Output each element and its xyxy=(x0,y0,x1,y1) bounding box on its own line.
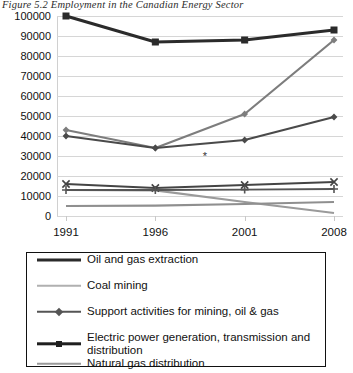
data-point-marker xyxy=(152,145,159,152)
series-line xyxy=(66,182,334,188)
legend-label: Oil and gas extraction xyxy=(87,253,198,266)
data-point-marker xyxy=(152,39,158,45)
data-point-marker xyxy=(330,185,338,193)
data-point-marker xyxy=(331,114,338,121)
y-tick-label: 20000 xyxy=(0,171,51,182)
legend-label: Electric power generation, transmission … xyxy=(87,331,310,357)
figure-title: Figure 5.2 Employment in the Canadian En… xyxy=(2,0,351,10)
legend-item[interactable]: Oil and gas extraction xyxy=(37,253,198,266)
square-marker-icon xyxy=(56,341,62,347)
y-tick-label: 100000 xyxy=(0,11,51,22)
y-tick-label: 0 xyxy=(0,211,51,222)
legend-swatch xyxy=(37,338,81,350)
x-tick-label: 2008 xyxy=(304,226,353,238)
legend-swatch xyxy=(37,306,81,318)
x-tick-label: 1996 xyxy=(125,226,185,238)
legend-label: Coal mining xyxy=(87,279,148,292)
data-point-marker xyxy=(242,37,248,43)
chart-area: 0100002000030000400005000060000700008000… xyxy=(0,12,353,245)
y-tick-label: 80000 xyxy=(0,51,51,62)
y-tick-label: 40000 xyxy=(0,131,51,142)
y-tick-label: 90000 xyxy=(0,31,51,42)
diamond-marker-icon xyxy=(55,307,63,315)
footnote-asterisk: * xyxy=(203,152,207,160)
data-point-marker xyxy=(63,133,70,140)
legend-label: Natural gas distribution xyxy=(87,357,205,370)
data-point-marker xyxy=(63,127,70,134)
series-line xyxy=(66,190,334,213)
series-lines xyxy=(57,16,343,217)
legend-swatch xyxy=(37,358,81,370)
series-line xyxy=(66,117,334,148)
y-tick-label: 30000 xyxy=(0,151,51,162)
legend-item[interactable]: Support activities for mining, oil & gas xyxy=(37,305,279,318)
series-line xyxy=(66,202,334,206)
data-point-marker xyxy=(331,27,337,33)
legend-item[interactable]: Electric power generation, transmission … xyxy=(37,331,310,357)
series-line xyxy=(66,16,334,42)
legend-item[interactable]: Natural gas distribution xyxy=(37,357,205,370)
series-line xyxy=(66,189,334,190)
series-line xyxy=(66,40,334,148)
x-tick-label: 1991 xyxy=(36,226,96,238)
y-tick-label: 70000 xyxy=(0,71,51,82)
legend-swatch xyxy=(37,254,81,266)
legend-label: Support activities for mining, oil & gas xyxy=(87,305,279,318)
legend-item[interactable]: Coal mining xyxy=(37,279,148,292)
legend-swatch xyxy=(37,280,81,292)
data-point-marker xyxy=(63,13,69,19)
plot-region: 0100002000030000400005000060000700008000… xyxy=(57,16,343,216)
x-tick-label: 2001 xyxy=(215,226,275,238)
y-tick-label: 60000 xyxy=(0,91,51,102)
chart-legend: Oil and gas extractionCoal miningSupport… xyxy=(26,252,326,367)
y-tick-label: 50000 xyxy=(0,111,51,122)
y-tick-label: 10000 xyxy=(0,191,51,202)
data-point-marker xyxy=(241,137,248,144)
